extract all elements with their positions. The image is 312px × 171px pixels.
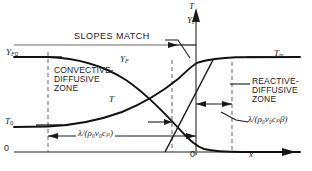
label-y-axis-temperature: T <box>189 2 194 12</box>
figure-canvas: YF0 T0 0 0 x T YF T∞ YF T SLOPES MATCH C… <box>0 0 312 171</box>
label-t-infinity: T∞ <box>274 49 283 59</box>
reactive-zone-line3: ZONE <box>252 95 299 104</box>
convective-zone-arrow-left <box>48 133 58 139</box>
label-baseline-zero: 0 <box>4 144 9 154</box>
label-origin: 0 <box>190 150 195 160</box>
label-curve-fuel: YF <box>120 55 129 65</box>
label-curve-temperature: T <box>109 95 114 105</box>
label-yf0: YF0 <box>6 48 18 58</box>
label-t0: T0 <box>5 117 13 127</box>
label-y-axis-fuel: YF <box>187 16 196 26</box>
annotation-convective-diffusive-zone: CONVECTIVE- DIFFUSIVE ZONE <box>54 66 114 94</box>
reactive-formula-leader <box>221 112 248 122</box>
annotation-slopes-match: SLOPES MATCH <box>74 32 150 42</box>
formula-convective-diffusive-thickness: λ/(ρ₀v₀cₚ) <box>76 129 115 139</box>
formula-reactive-diffusive-thickness: λ/(ρ₀v₀cₚβ) <box>248 115 287 125</box>
label-x-axis: x <box>249 150 253 160</box>
annotation-reactive-diffusive-zone: REACTIVE- DIFFUSIVE ZONE <box>252 77 299 105</box>
convective-zone-arrow-right <box>186 133 196 139</box>
convective-zone-line3: ZONE <box>54 84 114 93</box>
yf-axis-reference-arrowhead <box>168 42 178 48</box>
reactive-zone-arrow-left <box>196 101 206 107</box>
reactive-zone-arrow-right <box>222 101 232 107</box>
